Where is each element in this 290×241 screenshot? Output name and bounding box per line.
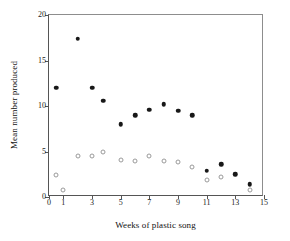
y-tick-label: 20: [38, 11, 46, 19]
x-tick-label: 9: [176, 199, 180, 207]
data-point-filled-circles: [204, 168, 209, 173]
data-point-filled-circles: [118, 122, 123, 127]
data-point-open-circles: [247, 187, 252, 192]
scatter-plot-figure: Mean number produced 05101520 0135791113…: [0, 0, 290, 241]
x-tick-label: 0: [47, 199, 51, 207]
x-tick-label: 15: [260, 199, 268, 207]
data-point-filled-circles: [133, 113, 138, 118]
data-point-open-circles: [54, 173, 59, 178]
data-point-open-circles: [176, 159, 181, 164]
data-point-open-circles: [190, 164, 195, 169]
data-point-open-circles: [161, 158, 166, 163]
x-tick-label: 13: [231, 199, 239, 207]
x-axis-label: Weeks of plastic song: [48, 220, 263, 230]
data-point-filled-circles: [101, 98, 106, 103]
y-tick-label: 15: [38, 57, 46, 65]
x-tick-label: 1: [61, 199, 65, 207]
data-point-open-circles: [61, 187, 66, 192]
data-points-layer: [49, 15, 262, 195]
data-point-filled-circles: [233, 172, 238, 177]
data-point-filled-circles: [54, 86, 59, 91]
y-tick-label: 5: [42, 148, 46, 156]
data-point-filled-circles: [176, 108, 181, 113]
data-point-open-circles: [219, 174, 224, 179]
data-point-filled-circles: [190, 113, 195, 118]
data-point-filled-circles: [147, 107, 152, 112]
data-point-open-circles: [133, 158, 138, 163]
x-tick-label: 11: [203, 199, 211, 207]
x-tick-label: 3: [90, 199, 94, 207]
data-point-open-circles: [118, 157, 123, 162]
data-point-filled-circles: [219, 162, 224, 167]
y-tick-label: 10: [38, 102, 46, 110]
data-point-filled-circles: [161, 102, 166, 107]
y-tick-label: 0: [42, 193, 46, 201]
data-point-open-circles: [75, 154, 80, 159]
y-axis-label-text: Mean number produced: [9, 61, 19, 149]
x-tick-label: 7: [147, 199, 151, 207]
data-point-open-circles: [204, 177, 209, 182]
data-point-filled-circles: [247, 182, 252, 187]
data-point-filled-circles: [90, 86, 95, 91]
plot-area: 05101520 013579111315: [48, 14, 263, 196]
x-tick-label: 5: [119, 199, 123, 207]
data-point-open-circles: [147, 154, 152, 159]
data-point-open-circles: [90, 154, 95, 159]
data-point-filled-circles: [75, 36, 80, 41]
data-point-open-circles: [101, 150, 106, 155]
y-axis-label: Mean number produced: [7, 14, 21, 196]
